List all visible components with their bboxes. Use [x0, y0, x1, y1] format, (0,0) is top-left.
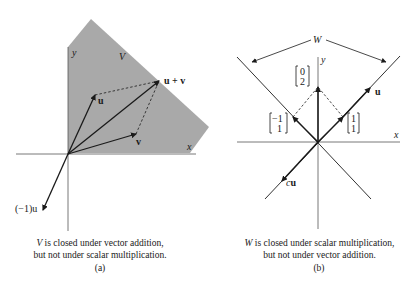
vector-neg-u-label: (−1)u [15, 203, 37, 215]
y-axis-label-a: y [71, 47, 77, 58]
label-vector-0-2: 0 2 [296, 66, 309, 87]
x-axis-label-a: x [186, 141, 192, 152]
label-vector-1-1: 1 1 [348, 113, 359, 134]
caption-a-line2: but not under scalar multiplication. [20, 249, 180, 261]
vector-u-label-b: u [375, 86, 381, 97]
vector-u-plus-v-label: u + v [164, 75, 185, 86]
w-pointer-left [252, 40, 311, 62]
caption-b-line2: but not under vector addition. [232, 249, 407, 261]
vector-neg1-1 [293, 117, 318, 142]
w-pointer-right [326, 40, 386, 62]
dashed-11-to-02 [318, 87, 343, 117]
caption-a: V is closed under vector addition, but n… [20, 237, 180, 261]
vector-cu-label: cu [286, 177, 296, 188]
svg-text:2: 2 [300, 76, 305, 87]
vector-cu [282, 142, 318, 181]
set-w-label: W [313, 34, 323, 45]
vector-u-b [343, 88, 370, 117]
vector-v-label-a: v [136, 136, 141, 147]
vector-1-1 [318, 117, 343, 142]
panel-a: V y x u v u + v (−1)u [15, 19, 209, 231]
caption-b-line1: is closed under scalar multiplication, [252, 238, 394, 248]
panel-tag-a: (a) [85, 263, 115, 273]
panel-tag-b: (b) [304, 263, 334, 273]
svg-text:1: 1 [277, 123, 282, 134]
region-v [68, 19, 209, 153]
caption-b: W is closed under scalar multiplication,… [232, 237, 407, 261]
vector-u-label-a: u [98, 95, 104, 106]
panel-b: W y x 0 2 −1 1 1 1 u cu [237, 34, 400, 229]
label-vector-neg1-1: −1 1 [270, 113, 287, 134]
vector-neg-u [43, 154, 68, 210]
svg-text:1: 1 [351, 123, 356, 134]
caption-a-line1: is closed under vector addition, [42, 238, 163, 248]
x-axis-label-b: x [393, 129, 399, 140]
y-axis-label-b: y [320, 54, 326, 65]
dashed-neg1-to-02 [293, 87, 318, 117]
